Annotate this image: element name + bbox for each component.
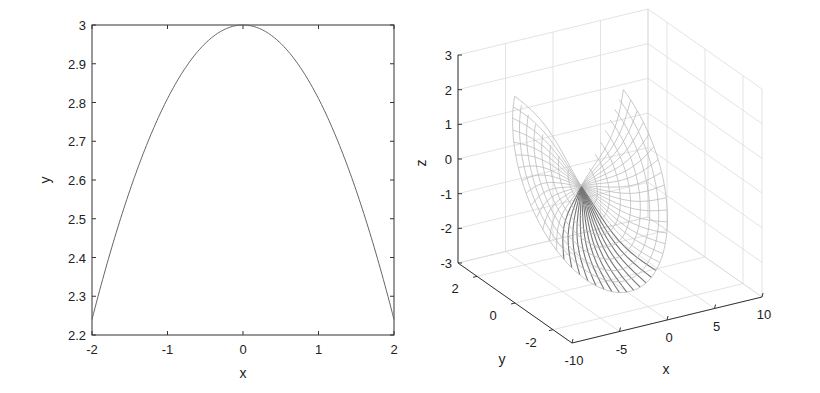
plot-frame	[92, 25, 394, 335]
x-tick-label: -5	[616, 342, 628, 357]
y-tick-label: 2.7	[68, 134, 86, 149]
x-tick-label: 0	[239, 342, 246, 357]
y-tick-label: 2	[451, 281, 458, 296]
y-tick-label: 2.4	[68, 251, 86, 266]
mesh-radial-line	[581, 111, 637, 186]
3d-grid	[458, 9, 762, 343]
y-tick-label: -2	[525, 335, 537, 350]
x-tick-label: -1	[162, 342, 174, 357]
chart-3d-surface: -3-2-10123-202-10-50510 z y x	[410, 0, 820, 393]
3d-tick-labels: -3-2-10123-202-10-50510	[440, 48, 771, 368]
y-tick-label: 0	[489, 308, 496, 323]
chart-3d-svg: -3-2-10123-202-10-50510 z y x	[410, 0, 820, 393]
x-tick-label: 2	[390, 342, 397, 357]
grid-line	[515, 257, 705, 303]
z-tick-label: 1	[445, 117, 452, 132]
z-tick-label: -2	[440, 221, 452, 236]
x-tick-label: 0	[665, 330, 672, 345]
x-tick-label: 5	[713, 319, 720, 334]
x-tick-label: 10	[757, 307, 771, 322]
z-tick-label: -1	[440, 187, 452, 202]
x-axis-label-3d: x	[663, 361, 670, 377]
x-axis-ticks: -2-1012	[86, 25, 397, 357]
y-tick-label: 2.8	[68, 96, 86, 111]
y-tick-label: 2.9	[68, 57, 86, 72]
y-tick	[511, 303, 515, 304]
data-line	[92, 25, 394, 320]
z-tick-label: 0	[445, 152, 452, 167]
chart-2d-svg: 2.22.32.42.52.62.72.82.93 -2-1012 x y	[0, 0, 410, 393]
z-tick-label: 2	[445, 83, 452, 98]
y-tick	[473, 276, 477, 277]
3d-axes	[458, 55, 763, 343]
y-axis-label: y	[37, 177, 53, 184]
y-axis-ticks: 2.22.32.42.52.62.72.82.93	[68, 18, 394, 343]
y-tick-label: 2.2	[68, 328, 86, 343]
x-axis-label: x	[240, 365, 247, 381]
mesh-radial-line	[513, 107, 581, 186]
z-axis-label: z	[413, 160, 429, 167]
y-tick-label: 2.6	[68, 173, 86, 188]
y-axis-label-3d: y	[499, 351, 506, 367]
mesh-radial-line	[581, 100, 631, 186]
x-tick-label: -10	[565, 353, 584, 368]
x-tick-label: 1	[315, 342, 322, 357]
y-tick-label: 3	[79, 18, 86, 33]
z-tick-label: 3	[445, 48, 452, 63]
y-tick-label: 2.3	[68, 289, 86, 304]
x-tick-label: -2	[86, 342, 98, 357]
y-tick-label: 2.5	[68, 212, 86, 227]
y-tick	[549, 330, 553, 331]
z-tick-label: -3	[440, 256, 452, 271]
mesh-radial-line	[581, 186, 665, 244]
chart-2d-parabola: 2.22.32.42.52.62.72.82.93 -2-1012 x y	[0, 0, 410, 393]
